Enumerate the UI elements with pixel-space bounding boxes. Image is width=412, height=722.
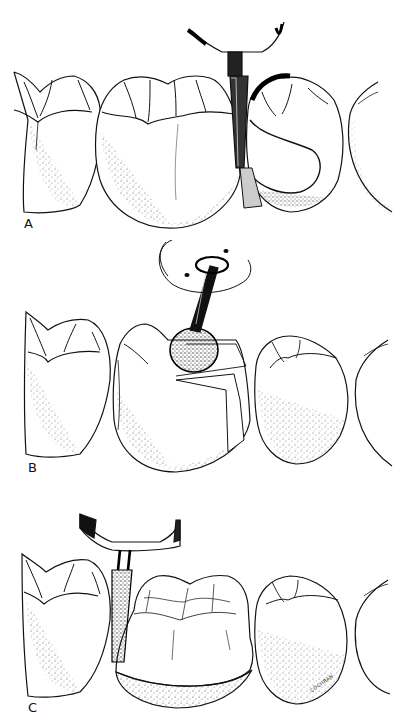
panel-label-a: A	[24, 216, 33, 231]
tooth-left	[14, 72, 101, 213]
tooth-right	[255, 336, 348, 464]
panel-label-c: C	[28, 700, 37, 715]
panel-c: C COCHRAN	[0, 480, 412, 722]
tooth-far-right	[349, 82, 392, 212]
tooth-right-with-matrix	[247, 76, 343, 212]
tooth-far-right	[355, 580, 390, 694]
panel-b-drawing	[0, 240, 412, 480]
panel-a-drawing	[0, 0, 412, 240]
tooth-left	[22, 554, 110, 697]
panel-a: A	[0, 0, 412, 240]
panel-b: B	[0, 240, 412, 480]
panel-label-b: B	[28, 460, 37, 475]
panel-c-drawing	[0, 480, 412, 722]
tooth-center-prep	[116, 575, 253, 708]
tooth-left	[25, 312, 111, 457]
tooth-far-right	[355, 340, 392, 466]
tooth-center	[96, 76, 241, 228]
tooth-right	[255, 576, 347, 704]
